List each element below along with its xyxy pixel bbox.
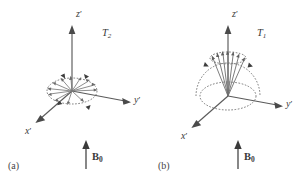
panel-a-label-y-axis: y′ <box>134 95 140 105</box>
panel-a-relaxation-label: T2 <box>102 28 111 39</box>
panel-b-label-x-axis: x′ <box>181 131 187 141</box>
panel-a-axis-x <box>35 91 72 123</box>
panel-b-relaxation-label: T1 <box>257 28 266 39</box>
panel-b-b0-label: B0 <box>244 152 255 163</box>
panel-a-b0-arrow <box>82 140 89 169</box>
panel-a-b0-label: B0 <box>92 152 103 163</box>
panel-a-axis-z <box>69 25 76 91</box>
panel-b-label-z-axis: z′ <box>232 9 238 19</box>
panel-a-label-x-axis: x′ <box>25 126 31 136</box>
nmr-relaxation-figure: z′ y′ x′ T2 B0 (a) z′ y′ x′ T1 B0 (b) <box>0 0 308 184</box>
panel-b-label-y-axis: y′ <box>286 99 292 109</box>
panel-b-axis-x <box>191 96 228 128</box>
panel-a-axis-y <box>72 91 131 105</box>
panel-a-label-z-axis: z′ <box>76 9 82 19</box>
panel-b-b0-arrow <box>234 140 241 169</box>
panel-b-graphics <box>191 25 283 169</box>
panel-a-caption: (a) <box>8 161 19 171</box>
panel-a-graphics <box>35 25 131 169</box>
panel-b-caption: (b) <box>158 161 170 171</box>
panel-b-axis-y <box>228 96 283 109</box>
